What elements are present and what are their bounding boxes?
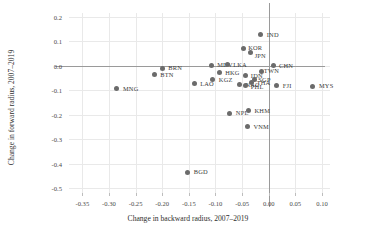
gridline-vertical: [215, 13, 216, 193]
data-point-label: JPN: [255, 53, 266, 59]
y-tick-label: -0.2: [36, 111, 62, 118]
x-axis-label: Change in backward radius, 2007–2019: [0, 214, 376, 223]
y-tick-label: -0.5: [36, 185, 62, 192]
gridline-vertical: [162, 13, 163, 193]
x-tick-label: 0.05: [290, 200, 302, 207]
x-tick-label: -0.35: [75, 200, 89, 207]
data-point-label: HKG: [225, 70, 239, 76]
gridline-horizontal: [69, 41, 330, 42]
data-point: [246, 108, 251, 113]
data-point: [152, 72, 157, 77]
plot-area: MNGBRNBTNLAOMDVLKAHKGKGZNACNPLKHMVNMBGDI…: [69, 13, 330, 193]
x-tick-label: 0.00: [263, 200, 275, 207]
y-tick-label: -0.3: [36, 136, 62, 143]
x-tick-label: -0.30: [102, 200, 116, 207]
y-axis-label: Change in forward radius, 2007–2019: [7, 23, 16, 193]
x-tick-mark: [189, 193, 190, 196]
x-tick-mark: [162, 193, 163, 196]
data-point-label: BTN: [160, 72, 173, 78]
x-tick-mark: [295, 193, 296, 196]
gridline-vertical: [82, 13, 83, 193]
data-point-label: VNM: [253, 124, 269, 130]
data-point-label: MNG: [123, 86, 139, 92]
x-tick-label: -0.05: [235, 200, 249, 207]
gridline-vertical: [136, 13, 137, 193]
data-point: [217, 70, 222, 75]
x-tick-mark: [269, 193, 270, 196]
data-point-label: MYS: [319, 83, 333, 89]
data-point: [310, 84, 315, 89]
x-tick-label: -0.10: [209, 200, 223, 207]
gridline-vertical: [322, 13, 323, 193]
data-point-label: KHM: [255, 108, 271, 114]
data-point: [243, 73, 248, 78]
data-point: [160, 66, 165, 71]
gridline-vertical: [189, 13, 190, 193]
data-point-label: BGD: [194, 169, 208, 175]
y-tick-label: 0.1: [36, 38, 62, 45]
data-point-label: FJI: [283, 83, 292, 89]
gridline-horizontal: [69, 188, 330, 189]
gridline-vertical: [295, 13, 296, 193]
data-point: [245, 124, 250, 129]
y-tick-label: 0.2: [36, 13, 62, 20]
y-tick-label: 0.0: [36, 62, 62, 69]
data-point-label: PHL: [251, 84, 264, 90]
data-point-label: CHN: [279, 63, 293, 69]
gridline-horizontal: [69, 139, 330, 140]
gridline-vertical: [109, 13, 110, 193]
data-point: [209, 63, 214, 68]
data-point: [258, 32, 263, 37]
gridline-horizontal: [69, 164, 330, 165]
data-point-label: IND: [267, 32, 279, 38]
y-tick-label: -0.4: [36, 160, 62, 167]
data-point-label: LKA: [233, 62, 247, 68]
data-point: [192, 81, 197, 86]
x-tick-mark: [109, 193, 110, 196]
y-tick-label: -0.1: [36, 87, 62, 94]
data-point-label: TWN: [264, 68, 279, 74]
gridline-horizontal: [69, 90, 330, 91]
data-point-label: KGZ: [219, 77, 233, 83]
x-tick-mark: [322, 193, 323, 196]
gridline-vertical: [242, 13, 243, 193]
x-tick-mark: [242, 193, 243, 196]
data-point: [274, 83, 279, 88]
data-point: [248, 50, 253, 55]
data-point: [241, 46, 246, 51]
x-tick-label: -0.20: [155, 200, 169, 207]
x-tick-mark: [82, 193, 83, 196]
data-point: [185, 170, 190, 175]
scatter-chart: MNGBRNBTNLAOMDVLKAHKGKGZNACNPLKHMVNMBGDI…: [0, 0, 376, 251]
gridline-horizontal: [69, 17, 330, 18]
x-tick-mark: [136, 193, 137, 196]
gridline-horizontal: [69, 115, 330, 116]
x-tick-mark: [215, 193, 216, 196]
x-tick-label: 0.10: [316, 200, 328, 207]
x-tick-label: -0.15: [182, 200, 196, 207]
x-tick-label: -0.25: [129, 200, 143, 207]
